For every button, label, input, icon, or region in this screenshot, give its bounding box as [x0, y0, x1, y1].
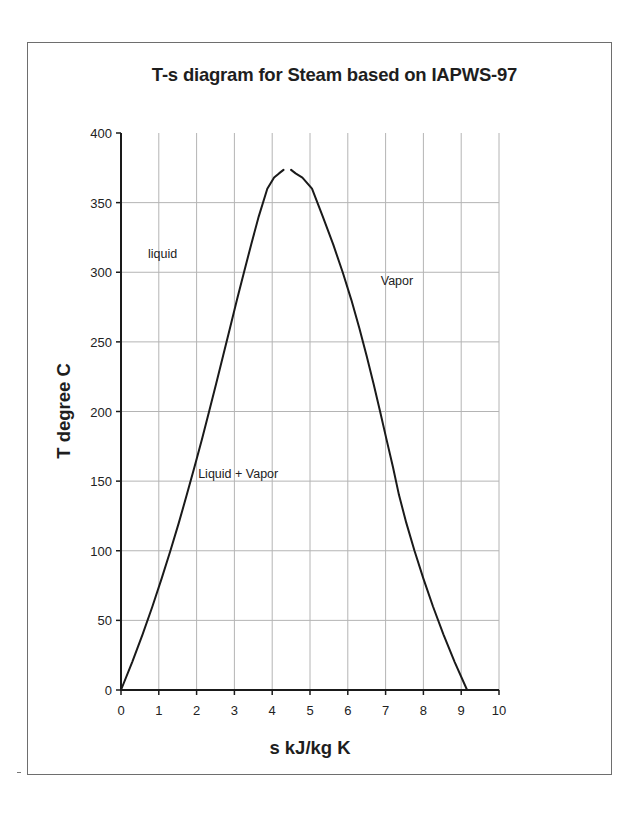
- x-tick-label: 4: [269, 703, 276, 718]
- x-tick-label: 7: [382, 703, 389, 718]
- x-tick-label: 0: [117, 703, 124, 718]
- x-tick-label: 8: [420, 703, 427, 718]
- saturated-liquid-curve: [121, 170, 284, 690]
- region-label-liquid: liquid: [148, 247, 177, 261]
- y-tick-label: 0: [105, 683, 112, 698]
- x-tick-label: 10: [492, 703, 506, 718]
- y-tick-label: 250: [90, 335, 112, 350]
- x-tick-label: 3: [231, 703, 238, 718]
- t-s-chart: 012345678910050100150200250300350400s kJ…: [0, 0, 643, 819]
- x-tick-label: 1: [155, 703, 162, 718]
- region-label-liquid-vapor: Liquid + Vapor: [198, 467, 278, 481]
- y-tick-label: 350: [90, 196, 112, 211]
- y-tick-label: 150: [90, 474, 112, 489]
- saturated-vapor-curve: [291, 170, 467, 690]
- x-axis-title: s kJ/kg K: [269, 737, 351, 758]
- x-tick-label: 9: [458, 703, 465, 718]
- region-label-vapor: Vapor: [381, 274, 413, 288]
- y-tick-label: 300: [90, 265, 112, 280]
- x-tick-label: 2: [193, 703, 200, 718]
- x-tick-label: 6: [344, 703, 351, 718]
- y-tick-label: 200: [90, 405, 112, 420]
- y-tick-label: 400: [90, 126, 112, 141]
- y-axis-title: T degree C: [53, 363, 74, 459]
- y-tick-label: 50: [98, 613, 112, 628]
- page-mark: [17, 772, 21, 773]
- y-tick-label: 100: [90, 544, 112, 559]
- x-tick-label: 5: [306, 703, 313, 718]
